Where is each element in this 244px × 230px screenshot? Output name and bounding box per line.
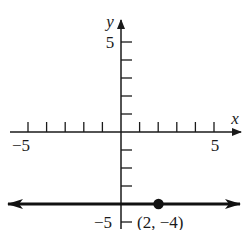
x-axis-label: x — [230, 109, 239, 128]
x-tick-label-neg5: −5 — [12, 136, 30, 155]
point-2-neg4 — [153, 199, 163, 209]
y-axis-label: y — [104, 12, 114, 31]
y-tick-label-neg5: −5 — [94, 213, 112, 230]
point-label: (2, −4) — [137, 213, 183, 230]
x-tick-label-5: 5 — [211, 136, 220, 155]
coordinate-plane: x y −5 5 5 −5 (2, −4) — [0, 0, 244, 230]
y-tick-label-5: 5 — [106, 33, 115, 52]
